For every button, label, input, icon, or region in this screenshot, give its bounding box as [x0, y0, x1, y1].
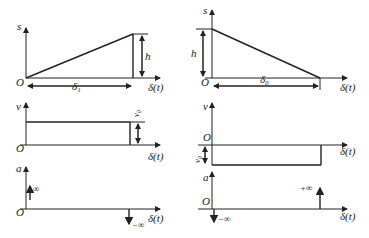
origin-label: O — [201, 76, 209, 88]
right-displacement-graph: s O δ(t) h δ₀ — [191, 4, 356, 94]
origin-label: O — [16, 206, 24, 218]
plus-infinity-label: ∞ — [33, 184, 39, 194]
v-axis-label: v — [203, 100, 208, 112]
x-axis-label: δ(t) — [340, 81, 356, 94]
origin-label: O — [16, 76, 24, 88]
origin-label: O — [203, 131, 211, 143]
origin-label: O — [16, 142, 24, 154]
right-velocity-graph: v O δ(t) v₀ — [192, 100, 356, 165]
origin-label: O — [202, 195, 210, 207]
interval-label: δ₀ — [260, 73, 269, 85]
s-axis-label: s — [17, 20, 21, 32]
s-axis-label: s — [203, 4, 207, 16]
a-axis-label: a — [16, 162, 22, 174]
x-axis-label: δ(t) — [148, 212, 164, 225]
interval-label: δ₁ — [72, 80, 81, 92]
left-acceleration-graph: a O δ(t) ∞ −∞ — [16, 162, 164, 230]
v0-label: v₀ — [131, 110, 141, 117]
v0-label: v₀ — [192, 156, 202, 163]
left-displacement-graph: s O δ(t) h δ₁ — [16, 20, 164, 94]
right-acceleration-graph: a O δ(t) −∞ +∞ — [198, 171, 356, 224]
x-axis-label: δ(t) — [340, 145, 356, 158]
height-label: h — [145, 50, 151, 62]
v-axis-label: v — [16, 100, 21, 112]
plus-infinity-label: +∞ — [300, 183, 313, 193]
a-axis-label: a — [203, 171, 209, 183]
minus-infinity-label: −∞ — [218, 214, 231, 224]
cam-motion-diagram: s O δ(t) h δ₁ v O δ(t) v₀ a O δ(t) ∞ −∞ — [0, 0, 369, 238]
minus-infinity-label: −∞ — [132, 220, 145, 230]
left-velocity-graph: v O δ(t) v₀ — [16, 100, 164, 163]
x-axis-label: δ(t) — [148, 81, 164, 94]
height-label: h — [191, 47, 197, 59]
x-axis-label: δ(t) — [148, 150, 164, 163]
x-axis-label: δ(t) — [340, 210, 356, 223]
